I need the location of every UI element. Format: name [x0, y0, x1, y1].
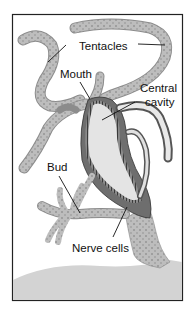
tentacle	[60, 107, 76, 110]
label-central-cavity-2: cavity	[145, 96, 174, 108]
label-bud: Bud	[47, 161, 67, 173]
label-tentacles: Tentacles	[79, 40, 128, 52]
label-central-cavity-1: Central	[140, 82, 177, 94]
label-mouth: Mouth	[60, 68, 92, 80]
label-nerve-cells: Nerve cells	[72, 242, 129, 254]
